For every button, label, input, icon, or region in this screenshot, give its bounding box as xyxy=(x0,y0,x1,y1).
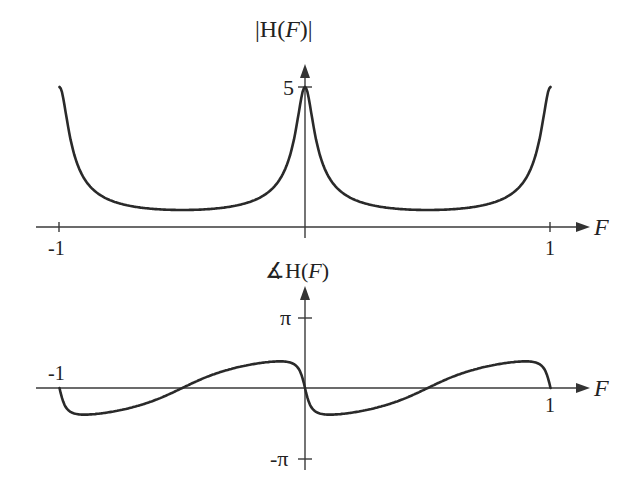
phase-plot: ∡H(F) π -π -1 1 F xyxy=(36,258,609,471)
x-axis-arrow-icon xyxy=(576,222,590,232)
phase-xlabel: F xyxy=(593,375,609,401)
phase-ylabel: ∡H(F) xyxy=(265,258,329,283)
magnitude-plot: |H(F)| 5 -1 1 F xyxy=(36,16,609,259)
chart-canvas: |H(F)| 5 -1 1 F ∡H(F) π -π -1 1 F xyxy=(0,0,637,495)
tick-label-neg1: -1 xyxy=(48,237,65,259)
tick-label-pos1: 1 xyxy=(545,237,555,259)
x-axis-arrow-icon xyxy=(576,383,590,393)
y-axis-arrow-icon xyxy=(300,64,310,78)
tick-label-5: 5 xyxy=(283,75,294,100)
tick-label-neg-pi: -π xyxy=(270,446,288,471)
magnitude-xlabel: F xyxy=(593,214,609,240)
magnitude-ylabel: |H(F)| xyxy=(255,16,313,42)
phase-tick-label-pos1: 1 xyxy=(545,394,555,416)
tick-label-pi: π xyxy=(280,305,291,330)
phase-tick-label-neg1: -1 xyxy=(48,362,65,384)
y-axis-arrow-icon xyxy=(300,286,310,300)
